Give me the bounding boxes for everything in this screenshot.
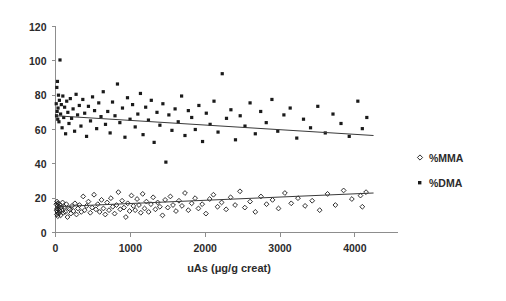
data-point-dma bbox=[64, 132, 67, 135]
trendline-mma bbox=[56, 193, 374, 207]
data-point-mma bbox=[79, 210, 84, 215]
data-point-mma bbox=[276, 206, 281, 211]
data-point-dma bbox=[139, 92, 142, 95]
data-point-dma bbox=[164, 161, 167, 164]
data-point-dma bbox=[99, 115, 102, 118]
data-point-dma bbox=[201, 140, 204, 143]
data-point-dma bbox=[74, 93, 77, 96]
data-point-dma bbox=[57, 120, 60, 123]
data-point-dma bbox=[59, 112, 62, 115]
data-point-dma bbox=[95, 127, 98, 130]
data-point-dma bbox=[55, 86, 58, 89]
data-point-dma bbox=[197, 104, 200, 107]
data-point-mma bbox=[112, 211, 117, 216]
data-point-dma bbox=[69, 97, 72, 100]
data-point-dma bbox=[73, 130, 76, 133]
data-point-dma bbox=[63, 106, 66, 109]
data-point-dma bbox=[194, 128, 197, 131]
data-point-dma bbox=[190, 116, 193, 119]
trendline-dma bbox=[56, 116, 374, 136]
data-point-dma bbox=[248, 101, 251, 104]
data-point-mma bbox=[253, 210, 258, 215]
data-point-dma bbox=[339, 122, 342, 125]
data-point-mma bbox=[219, 200, 224, 205]
data-point-mma bbox=[74, 212, 79, 217]
data-point-dma bbox=[150, 99, 153, 102]
data-point-mma bbox=[238, 189, 243, 194]
data-point-mma bbox=[270, 197, 275, 202]
data-point-dma bbox=[259, 110, 262, 113]
data-point-dma bbox=[116, 82, 119, 85]
scatter-plot: 020406080100120 01000200030004000 uAs (μ… bbox=[0, 0, 506, 301]
data-point-dma bbox=[66, 111, 69, 114]
series-points-mma bbox=[54, 188, 369, 219]
trendline-mma-line bbox=[56, 193, 374, 207]
data-point-dma bbox=[89, 119, 92, 122]
legend-label-mma: %MMA bbox=[429, 152, 464, 164]
data-point-dma bbox=[131, 103, 134, 106]
data-point-dma bbox=[134, 125, 137, 128]
data-point-dma bbox=[265, 121, 268, 124]
data-point-mma bbox=[168, 194, 173, 199]
data-point-dma bbox=[356, 100, 359, 103]
data-point-dma bbox=[187, 109, 190, 112]
data-point-dma bbox=[60, 103, 63, 106]
data-point-mma bbox=[224, 207, 229, 212]
data-point-dma bbox=[113, 114, 116, 117]
data-point-dma bbox=[141, 133, 144, 136]
data-point-dma bbox=[302, 118, 305, 121]
data-point-dma bbox=[295, 136, 298, 139]
data-point-dma bbox=[365, 116, 368, 119]
data-point-dma bbox=[221, 72, 224, 75]
data-point-mma bbox=[189, 201, 194, 206]
data-point-mma bbox=[360, 204, 365, 209]
data-point-mma bbox=[95, 202, 100, 207]
data-point-dma bbox=[83, 112, 86, 115]
data-point-dma bbox=[71, 107, 74, 110]
data-point-dma bbox=[81, 98, 84, 101]
y-tick-label: 100 bbox=[29, 55, 47, 67]
x-tick-label: 2000 bbox=[193, 242, 217, 254]
data-point-dma bbox=[60, 126, 63, 129]
data-point-dma bbox=[309, 126, 312, 129]
data-point-mma bbox=[88, 210, 93, 215]
data-point-dma bbox=[87, 105, 90, 108]
data-point-dma bbox=[205, 112, 208, 115]
data-point-mma bbox=[233, 203, 238, 208]
data-point-mma bbox=[248, 199, 253, 204]
data-point-dma bbox=[180, 94, 183, 97]
data-point-dma bbox=[123, 136, 126, 139]
data-point-mma bbox=[341, 188, 346, 193]
data-point-dma bbox=[239, 114, 242, 117]
data-point-dma bbox=[225, 117, 228, 120]
data-point-mma bbox=[116, 190, 121, 195]
data-point-mma bbox=[303, 203, 308, 208]
data-point-dma bbox=[316, 105, 319, 108]
data-point-mma bbox=[204, 211, 209, 216]
data-point-mma bbox=[186, 208, 191, 213]
data-point-mma bbox=[127, 209, 132, 214]
x-tick-label: 0 bbox=[53, 242, 59, 254]
data-point-mma bbox=[140, 191, 145, 196]
data-point-dma bbox=[361, 127, 364, 130]
data-point-dma bbox=[67, 122, 70, 125]
data-point-dma bbox=[144, 106, 147, 109]
data-point-mma bbox=[101, 206, 106, 211]
data-point-dma bbox=[254, 132, 257, 135]
data-point-mma bbox=[92, 192, 97, 197]
data-point-dma bbox=[282, 113, 285, 116]
x-tick-label: 3000 bbox=[268, 242, 292, 254]
data-point-mma bbox=[289, 201, 294, 206]
data-point-mma bbox=[165, 205, 170, 210]
data-point-dma bbox=[183, 134, 186, 137]
data-point-mma bbox=[171, 203, 176, 208]
data-point-dma bbox=[153, 141, 156, 144]
data-point-mma bbox=[317, 208, 322, 213]
y-tick-labels: 020406080100120 bbox=[29, 21, 47, 239]
data-point-dma bbox=[234, 138, 237, 141]
data-point-dma bbox=[121, 106, 124, 109]
x-tick-labels: 01000200030004000 bbox=[53, 242, 367, 254]
data-point-dma bbox=[161, 102, 164, 105]
data-point-mma bbox=[123, 215, 128, 220]
data-point-mma bbox=[310, 198, 315, 203]
